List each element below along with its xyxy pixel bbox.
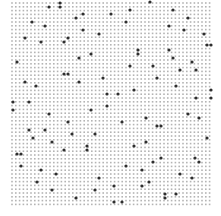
grid-dot: [45, 166, 47, 168]
grid-dot: [45, 86, 47, 88]
grid-dot: [102, 124, 104, 126]
grid-dot: [30, 185, 32, 187]
grid-dot: [45, 112, 47, 114]
grid-dot: [38, 97, 40, 99]
grid-dot: [178, 52, 180, 54]
grid-dot: [83, 135, 85, 137]
grid-dot: [45, 147, 47, 149]
grid-dot: [159, 25, 161, 27]
grid-dot: [61, 192, 63, 194]
grid-dot: [186, 25, 188, 27]
grid-dot: [156, 67, 158, 69]
grid-dot: [129, 166, 131, 168]
grid-dot: [148, 200, 150, 202]
grid-dot: [194, 192, 196, 194]
grid-dot: [209, 10, 211, 12]
grid-dot: [133, 97, 135, 99]
grid-dot: [140, 131, 142, 133]
grid-dot: [76, 185, 78, 187]
grid-dot: [106, 82, 108, 84]
grid-dot: [38, 204, 40, 206]
grid-dot: [137, 162, 139, 164]
grid-dot: [99, 124, 101, 126]
grid-dot: [11, 192, 13, 194]
grid-dot: [49, 139, 51, 141]
grid-dot: [118, 6, 120, 8]
highlighted-dot: [163, 196, 166, 199]
grid-dot: [95, 162, 97, 164]
grid-dot: [91, 10, 93, 12]
grid-dot: [30, 158, 32, 160]
grid-dot: [91, 44, 93, 46]
grid-dot: [194, 173, 196, 175]
grid-dot: [175, 158, 177, 160]
grid-dot: [83, 196, 85, 198]
grid-dot: [118, 109, 120, 111]
grid-dot: [45, 74, 47, 76]
grid-dot: [171, 48, 173, 50]
grid-dot: [45, 181, 47, 183]
grid-dot: [99, 162, 101, 164]
grid-dot: [201, 82, 203, 84]
grid-dot: [76, 101, 78, 103]
grid-dot: [190, 188, 192, 190]
grid-dot: [42, 59, 44, 61]
grid-dot: [118, 59, 120, 61]
grid-dot: [178, 154, 180, 156]
grid-dot: [197, 21, 199, 23]
grid-dot: [137, 173, 139, 175]
grid-dot: [159, 105, 161, 107]
grid-dot: [159, 36, 161, 38]
grid-dot: [209, 143, 211, 145]
grid-dot: [156, 101, 158, 103]
grid-dot: [182, 86, 184, 88]
grid-dot: [178, 181, 180, 183]
grid-dot: [133, 150, 135, 152]
grid-dot: [197, 181, 199, 183]
grid-dot: [129, 33, 131, 35]
grid-dot: [42, 97, 44, 99]
grid-dot: [190, 71, 192, 73]
grid-dot: [125, 93, 127, 95]
grid-dot: [30, 124, 32, 126]
grid-dot: [194, 169, 196, 171]
grid-dot: [125, 162, 127, 164]
grid-dot: [72, 2, 74, 4]
grid-dot: [118, 143, 120, 145]
grid-dot: [205, 188, 207, 190]
grid-dot: [72, 10, 74, 12]
grid-dot: [11, 154, 13, 156]
grid-dot: [49, 173, 51, 175]
grid-dot: [19, 6, 21, 8]
grid-dot: [68, 185, 70, 187]
grid-dot: [197, 105, 199, 107]
grid-dot: [64, 25, 66, 27]
grid-dot: [61, 86, 63, 88]
grid-dot: [95, 116, 97, 118]
grid-dot: [95, 128, 97, 130]
grid-dot: [114, 52, 116, 54]
grid-dot: [53, 131, 55, 133]
grid-dot: [148, 44, 150, 46]
grid-dot: [49, 135, 51, 137]
grid-dot: [11, 135, 13, 137]
grid-dot: [76, 139, 78, 141]
grid-dot: [15, 71, 17, 73]
grid-dot: [159, 177, 161, 179]
grid-dot: [167, 74, 169, 76]
grid-dot: [49, 52, 51, 54]
grid-dot: [19, 177, 21, 179]
grid-dot: [49, 177, 51, 179]
grid-dot: [182, 63, 184, 65]
grid-dot: [167, 6, 169, 8]
grid-dot: [114, 188, 116, 190]
grid-dot: [144, 14, 146, 16]
grid-dot: [171, 90, 173, 92]
grid-dot: [68, 82, 70, 84]
grid-dot: [118, 177, 120, 179]
grid-dot: [133, 14, 135, 16]
grid-dot: [83, 116, 85, 118]
highlighted-dot: [132, 144, 135, 147]
grid-dot: [186, 86, 188, 88]
grid-dot: [197, 78, 199, 80]
